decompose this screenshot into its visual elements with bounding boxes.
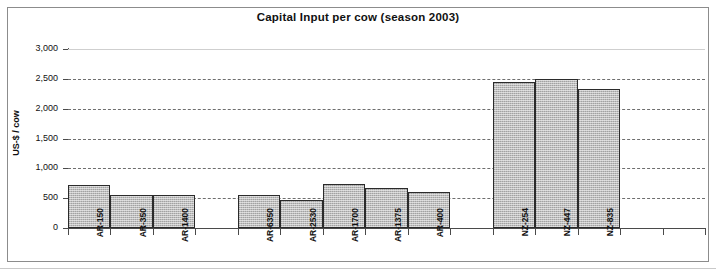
x-tick-mark (450, 228, 451, 235)
y-tick-label: 3,000 (0, 43, 58, 53)
x-tick-mark (578, 228, 579, 235)
x-tick-mark (493, 228, 494, 235)
x-tick-mark (280, 228, 281, 235)
x-axis-label: AR-6350 (264, 208, 276, 268)
x-tick-mark (365, 228, 366, 235)
x-tick-mark (110, 228, 111, 235)
y-tick-label: 500 (0, 192, 58, 202)
x-axis-label: AR-400 (434, 208, 446, 268)
bar (493, 82, 535, 228)
x-tick-mark (68, 228, 69, 235)
x-axis-label: AR-150 (94, 208, 106, 268)
gridline (68, 79, 705, 80)
x-tick-mark (408, 228, 409, 235)
x-tick-mark (238, 228, 239, 235)
frame-bottom-rule (0, 268, 716, 269)
x-tick-mark (535, 228, 536, 235)
gridline (68, 49, 705, 50)
x-axis-label: AR-1700 (349, 208, 361, 268)
y-tick-label: 2,000 (0, 103, 58, 113)
x-axis-label: AR-2530 (307, 208, 319, 268)
x-axis-label: AR-350 (137, 208, 149, 268)
x-axis-label: NZ-254 (519, 208, 531, 268)
x-axis-label: NZ-447 (561, 208, 573, 268)
x-tick-mark (663, 228, 664, 235)
x-tick-mark (705, 228, 706, 235)
x-axis-label: AR-1375 (392, 208, 404, 268)
x-tick-mark (153, 228, 154, 235)
x-tick-mark (620, 228, 621, 235)
y-tick-label: 2,500 (0, 73, 58, 83)
x-axis-label: NZ-835 (604, 208, 616, 268)
x-tick-mark (323, 228, 324, 235)
bar (535, 79, 577, 228)
x-tick-mark (195, 228, 196, 235)
x-axis-label: AR-1400 (179, 208, 191, 268)
y-tick-label: 0 (0, 222, 58, 232)
y-tick-label: 1,000 (0, 162, 58, 172)
y-tick-label: 1,500 (0, 133, 58, 143)
capital-input-per-cow-chart: Capital Input per cow (season 2003) US-$… (0, 0, 716, 271)
chart-title: Capital Input per cow (season 2003) (0, 11, 716, 23)
plot-area (68, 49, 705, 228)
